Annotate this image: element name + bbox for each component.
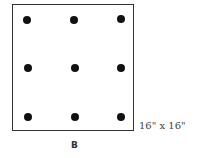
dot-2-3 <box>117 64 125 72</box>
dot-1-2 <box>70 16 78 24</box>
dot-3-3 <box>117 113 125 121</box>
dot-3-1 <box>24 113 32 121</box>
dot-2-2 <box>71 64 79 72</box>
dot-1-1 <box>23 16 31 24</box>
dimension-label: 16" x 16" <box>139 120 186 131</box>
dot-1-3 <box>117 15 125 23</box>
dot-3-2 <box>71 113 79 121</box>
figure-label: B <box>71 140 78 150</box>
dot-2-1 <box>24 64 32 72</box>
